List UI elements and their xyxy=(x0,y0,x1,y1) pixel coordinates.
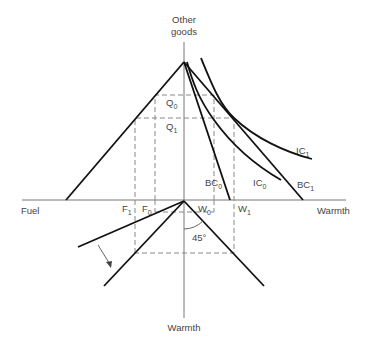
w1-label: W1 xyxy=(238,203,251,216)
f1-label: F1 xyxy=(122,203,132,216)
w0-label: W0 xyxy=(198,203,211,216)
angle-label: 45° xyxy=(192,232,207,243)
f0-label: F0 xyxy=(142,203,152,216)
budget-constraint-diagram: Other goods Fuel Warmth Warmth Q0 Q1 F1 … xyxy=(0,0,366,339)
lower-45-line xyxy=(184,201,264,286)
ic0-label: IC0 xyxy=(253,177,267,190)
q0-label: Q0 xyxy=(166,97,177,110)
y-axis-label-line2: goods xyxy=(171,26,197,37)
q1-label: Q1 xyxy=(166,121,177,134)
lower-left-flat-line xyxy=(78,201,184,247)
y-axis-label-line1: Other xyxy=(172,14,196,25)
ic1-curve xyxy=(201,58,312,159)
fuel-axis-label: Fuel xyxy=(21,205,39,216)
arrow-head-icon xyxy=(106,261,112,268)
bc1-line xyxy=(184,62,303,200)
warmth-bottom-label: Warmth xyxy=(168,322,201,333)
bc1-label: BC1 xyxy=(297,179,314,192)
warmth-axis-label: Warmth xyxy=(317,205,350,216)
angle-arc xyxy=(184,221,203,229)
